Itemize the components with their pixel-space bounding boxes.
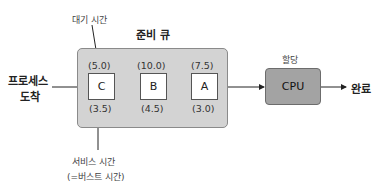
process-a: A <box>191 73 218 100</box>
process-b-burst: (4.5) <box>141 103 164 114</box>
process-a-wait: (7.5) <box>191 60 214 71</box>
arrival-label-1: 프로세스 <box>8 72 48 88</box>
process-b: B <box>140 73 167 100</box>
process-b-label: B <box>150 80 158 93</box>
ready-queue-title: 준비 큐 <box>136 26 170 42</box>
process-a-burst: (3.0) <box>192 103 215 114</box>
process-b-wait: (10.0) <box>137 60 166 71</box>
wait-time-label: 대기 시간 <box>72 13 107 26</box>
process-c-burst: (3.5) <box>89 103 112 114</box>
cpu-label: CPU <box>282 80 304 93</box>
service-time-label: 서비스 시간 <box>72 155 115 168</box>
completion-label: 완료 <box>351 80 371 96</box>
process-c: C <box>88 73 115 100</box>
process-c-label: C <box>98 80 106 93</box>
dispatch-label: 할당 <box>282 53 298 66</box>
process-c-wait: (5.0) <box>88 60 111 71</box>
arrival-label-2: 도착 <box>20 88 40 104</box>
burst-time-label: (=버스트 시간) <box>67 170 124 183</box>
process-a-label: A <box>201 80 209 93</box>
cpu-box: CPU <box>265 68 321 105</box>
